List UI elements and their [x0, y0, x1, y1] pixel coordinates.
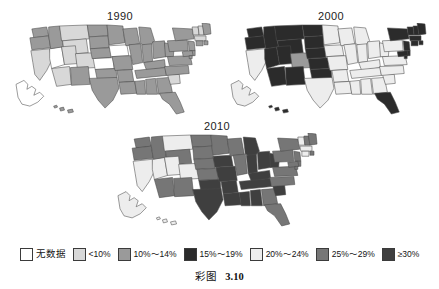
state-ms — [239, 192, 250, 206]
state-vt — [407, 27, 414, 35]
state-ia — [109, 45, 129, 57]
legend-label: 15%～19% — [200, 250, 243, 259]
state-mi — [243, 137, 259, 157]
figure-container: 1990 2000 2010 无数据<10%10%～14%15%～19%20%～… — [0, 0, 439, 289]
map-panel-2010: 2010 — [108, 120, 326, 230]
state-mo — [327, 56, 348, 71]
map-title-2010: 2010 — [108, 120, 326, 132]
state-ct — [196, 41, 203, 46]
state-la — [334, 81, 352, 94]
state-ak — [118, 192, 146, 218]
state-az — [154, 177, 174, 197]
legend-swatch — [316, 248, 329, 261]
state-va — [382, 56, 407, 66]
state-or — [245, 36, 266, 50]
state-nd — [191, 135, 212, 147]
state-nj — [188, 41, 195, 51]
state-pa — [273, 150, 294, 162]
map-title-2000: 2000 — [222, 10, 434, 22]
legend: 无数据<10%10%～14%15%～19%20%～24%25%～29%≥30% — [0, 244, 439, 264]
state-tn — [239, 178, 271, 189]
legend-swatch — [73, 248, 86, 261]
legend-label: 10%～14% — [134, 250, 177, 259]
us-choropleth-2000 — [222, 23, 434, 118]
state-ak — [16, 80, 44, 106]
state-ne — [90, 48, 111, 59]
caption-number: 3.10 — [225, 271, 243, 282]
state-dc — [189, 56, 192, 59]
legend-label: 无数据 — [36, 249, 66, 259]
legend-item: <10% — [73, 248, 111, 261]
state-sd — [304, 36, 324, 49]
state-nj — [294, 151, 301, 161]
state-ca — [133, 159, 154, 191]
state-mo — [216, 166, 237, 181]
state-ca — [246, 49, 267, 81]
map-panel-2000: 2000 — [222, 10, 434, 118]
state-va — [167, 56, 192, 66]
state-nc — [164, 66, 189, 76]
state-va — [273, 166, 298, 176]
state-in — [142, 44, 153, 63]
state-wi — [227, 138, 244, 156]
state-ia — [213, 155, 233, 167]
state-tn — [350, 68, 382, 79]
legend-swatch — [20, 248, 33, 261]
map-title-1990: 1990 — [8, 10, 218, 22]
legend-item: 10%～14% — [118, 248, 177, 261]
state-mo — [112, 56, 133, 71]
state-nd — [87, 25, 108, 37]
map-canvas-1990 — [8, 23, 218, 118]
state-ks — [308, 58, 329, 70]
state-ri — [310, 151, 314, 155]
state-tx — [304, 77, 334, 108]
legend-swatch — [118, 248, 131, 261]
state-pa — [167, 40, 188, 52]
state-mt — [162, 135, 192, 151]
state-ct — [411, 41, 418, 46]
legend-swatch — [382, 248, 395, 261]
state-pa — [382, 40, 403, 52]
state-nj — [403, 41, 410, 51]
state-ri — [419, 41, 423, 45]
state-al — [361, 78, 373, 94]
state-ne — [305, 48, 326, 59]
state-ms — [135, 80, 146, 94]
state-or — [132, 146, 153, 160]
state-fl — [375, 92, 400, 114]
legend-label: ≥30% — [398, 250, 420, 259]
state-ar — [332, 70, 349, 83]
state-ri — [204, 41, 208, 45]
state-mi — [354, 27, 370, 47]
state-wi — [338, 28, 355, 46]
state-ct — [302, 151, 309, 156]
state-ar — [221, 180, 238, 193]
legend-item: 15%～19% — [184, 248, 243, 261]
state-or — [30, 36, 51, 50]
state-ia — [324, 45, 344, 57]
state-dc — [404, 56, 407, 59]
state-la — [119, 81, 137, 94]
state-mt — [275, 25, 305, 41]
map-canvas-2010 — [108, 133, 326, 230]
state-mn — [211, 135, 229, 155]
state-az — [267, 67, 287, 87]
caption-label: 彩图 — [195, 270, 216, 282]
state-in — [246, 154, 257, 173]
state-hi — [54, 105, 74, 113]
state-ny — [172, 28, 194, 41]
state-az — [52, 67, 72, 87]
state-mn — [107, 25, 125, 45]
state-tx — [89, 77, 119, 108]
state-sd — [89, 36, 109, 49]
state-tx — [193, 189, 223, 220]
state-la — [223, 193, 241, 206]
state-dc — [295, 166, 298, 169]
state-hi — [269, 105, 289, 113]
legend-item: 20%～24% — [250, 248, 309, 261]
state-mn — [322, 25, 340, 45]
state-fl — [264, 204, 289, 226]
state-hi — [156, 217, 176, 225]
state-nd — [302, 25, 323, 37]
state-ma — [300, 146, 312, 151]
